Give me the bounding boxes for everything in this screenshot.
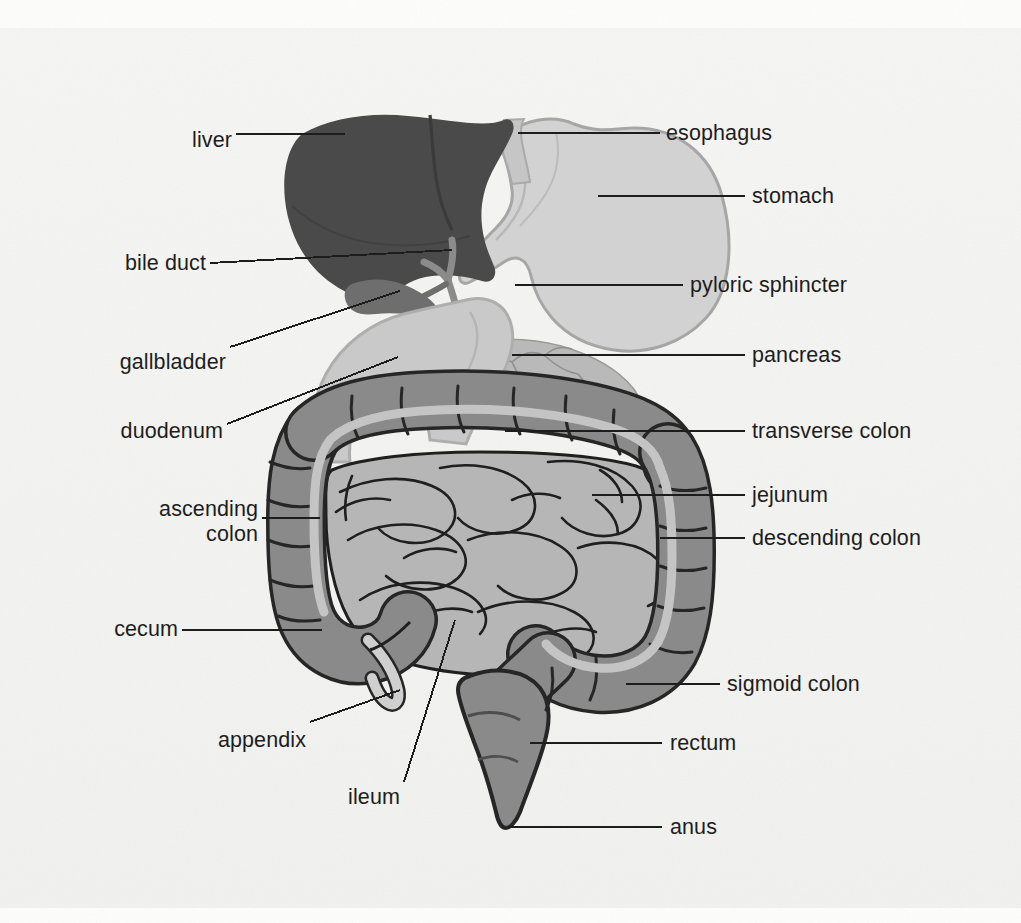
label-cecum: cecum <box>0 617 178 642</box>
organ-liver <box>284 115 513 302</box>
label-pyloric-sphincter: pyloric sphincter <box>690 273 847 298</box>
label-rectum: rectum <box>670 731 736 756</box>
label-descending-colon: descending colon <box>752 526 921 551</box>
organ-rectum <box>458 671 549 828</box>
label-gallbladder: gallbladder <box>0 350 226 375</box>
label-ascending-colon: ascending colon <box>0 497 258 547</box>
label-jejunum: jejunum <box>752 483 828 508</box>
label-stomach: stomach <box>752 184 834 209</box>
label-esophagus: esophagus <box>666 121 772 146</box>
label-sigmoid-colon: sigmoid colon <box>727 672 860 697</box>
label-bile-duct: bile duct <box>0 251 206 276</box>
label-liver: liver <box>0 128 232 153</box>
label-ileum: ileum <box>0 785 400 810</box>
label-pancreas: pancreas <box>752 343 841 368</box>
label-anus: anus <box>670 815 717 840</box>
label-appendix: appendix <box>0 728 306 753</box>
label-transverse-colon: transverse colon <box>752 419 911 444</box>
diagram-page: liver bile duct gallbladder duodenum asc… <box>0 0 1021 923</box>
label-duodenum: duodenum <box>0 419 223 444</box>
